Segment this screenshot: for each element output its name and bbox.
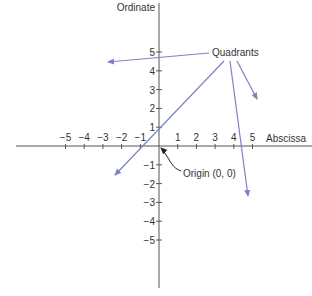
- x-tick-label: −5: [60, 132, 72, 143]
- y-tick-label: −3: [144, 197, 156, 208]
- x-tick-label: −4: [78, 132, 90, 143]
- y-tick-label: 4: [149, 66, 155, 77]
- y-tick-label: 1: [149, 122, 155, 133]
- quadrant-arrow-icon: [115, 61, 224, 175]
- y-tick-label: −1: [144, 160, 156, 171]
- origin-callout: Origin (0, 0): [161, 148, 236, 179]
- x-tick-label: 2: [194, 132, 200, 143]
- y-tick-label: −2: [144, 179, 156, 190]
- x-tick-label: −3: [97, 132, 109, 143]
- quadrants-label: Quadrants: [212, 47, 259, 58]
- x-tick-label: 1: [175, 132, 181, 143]
- quadrant-arrow-icon: [237, 61, 257, 99]
- y-tick-label: −4: [144, 216, 156, 227]
- origin-arrow-icon: [161, 148, 181, 171]
- x-tick-label: −1: [135, 132, 147, 143]
- coordinate-plane-diagram: −5−4−3−2−112345 54321−1−2−3−4−5 Ordinate…: [0, 0, 312, 296]
- y-tick-label: 5: [149, 47, 155, 58]
- y-axis-label: Ordinate: [117, 2, 156, 13]
- x-tick-label: 3: [212, 132, 218, 143]
- origin-label: Origin (0, 0): [183, 168, 236, 179]
- x-axis-label: Abscissa: [266, 133, 306, 144]
- y-tick-label: 2: [149, 103, 155, 114]
- x-tick-label: 4: [231, 132, 237, 143]
- y-tick-label: −5: [144, 235, 156, 246]
- x-tick-label: −2: [116, 132, 128, 143]
- y-tick-label: 3: [149, 85, 155, 96]
- x-tick-label: 5: [250, 132, 256, 143]
